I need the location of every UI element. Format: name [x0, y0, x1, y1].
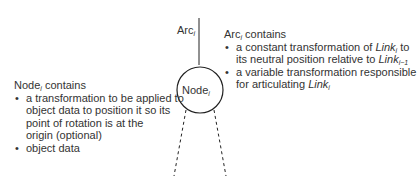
node-label-text: Node	[182, 84, 208, 96]
arc-label-text: Arc	[177, 24, 194, 36]
text: to	[397, 41, 409, 53]
text: origin (optional)	[26, 129, 184, 142]
child-arc-right	[214, 110, 226, 176]
arc-contents-title: Arci contains	[224, 28, 416, 41]
node-title-suffix: contains	[42, 79, 86, 91]
node-item-transformation: a transformation to be applied to object…	[14, 92, 184, 142]
text: point of rotation is at the	[26, 117, 184, 130]
text: Link	[375, 41, 395, 53]
node-title-text: Node	[14, 79, 40, 91]
text: object data to position it so its	[26, 104, 184, 117]
text: its neutral position relative to	[236, 53, 378, 65]
text: a constant transformation of	[236, 41, 375, 53]
text: Link	[308, 78, 328, 90]
text: for articulating	[236, 78, 308, 90]
arc-title-suffix: contains	[242, 28, 286, 40]
arc-title-text: Arc	[224, 28, 241, 40]
text: i	[328, 84, 330, 91]
node-contents-box: Nodei contains a transformation to be ap…	[14, 79, 184, 154]
arc-contents-list: a constant transformation of Linki to it…	[224, 41, 416, 91]
node-label: Nodei	[182, 84, 210, 97]
text: object data	[26, 142, 184, 155]
node-contents-list: a transformation to be applied to object…	[14, 92, 184, 155]
text: a transformation to be applied to	[26, 92, 184, 105]
node-label-sub: i	[208, 90, 210, 97]
text: a variable transformation responsible	[236, 66, 416, 79]
arc-label: Arci	[177, 24, 195, 37]
arc-label-sub: i	[194, 30, 196, 37]
node-item-object-data: object data	[14, 142, 184, 155]
text: Link	[378, 53, 398, 65]
node-contents-title: Nodei contains	[14, 79, 184, 92]
arc-item-constant-transform: a constant transformation of Linki to it…	[224, 41, 416, 66]
arc-contents-box: Arci contains a constant transformation …	[224, 28, 416, 91]
arc-item-variable-transform: a variable transformation responsible fo…	[224, 66, 416, 91]
